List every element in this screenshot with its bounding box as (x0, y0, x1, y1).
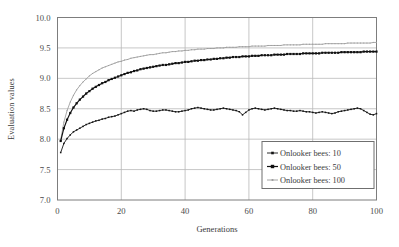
series-marker (357, 107, 359, 109)
series-marker (187, 61, 189, 63)
series-marker (353, 108, 355, 110)
series-marker (350, 109, 352, 111)
series-marker (366, 50, 368, 52)
series-marker (121, 113, 123, 115)
series-marker (356, 51, 358, 53)
series-marker (232, 109, 234, 111)
series-marker (273, 54, 275, 56)
series-marker (232, 47, 233, 48)
series-marker (337, 52, 339, 54)
series-marker (123, 73, 125, 75)
series-marker (79, 127, 81, 129)
series-marker (127, 110, 128, 112)
y-axis-title: Evaluation values (7, 78, 16, 140)
series-marker (89, 75, 90, 76)
series-marker (293, 44, 294, 45)
series-marker (302, 52, 304, 54)
series-marker (85, 92, 87, 94)
series-marker (312, 112, 314, 114)
series-marker (302, 110, 304, 112)
series-marker (308, 52, 310, 54)
series-marker (354, 43, 355, 44)
series-marker (226, 47, 227, 48)
series-marker (105, 118, 107, 120)
series-marker (169, 52, 170, 53)
series-marker (328, 112, 330, 114)
series-marker (146, 67, 148, 69)
x-tick-label: 100 (370, 206, 383, 216)
series-marker (194, 49, 195, 50)
series-marker (363, 50, 365, 52)
series-marker (289, 53, 291, 55)
series-marker (207, 109, 209, 111)
series-marker (344, 110, 346, 112)
series-marker (340, 51, 342, 53)
series-marker (95, 120, 97, 122)
series-marker (204, 49, 205, 50)
series-marker (85, 124, 87, 126)
chart-figure: 7.07.58.08.59.09.510.0 020406080100 Gene… (0, 0, 399, 247)
series-marker (283, 109, 285, 111)
series-marker (114, 77, 116, 79)
series-marker (203, 108, 205, 110)
series-marker (201, 49, 202, 50)
series-marker (261, 109, 263, 111)
y-tick-label: 9.5 (40, 43, 51, 53)
series-marker (369, 50, 371, 52)
series-marker (239, 46, 240, 47)
series-marker (104, 81, 106, 83)
series-marker (293, 110, 295, 112)
series-marker (73, 95, 74, 96)
series-marker (290, 110, 292, 112)
series-marker (331, 52, 333, 54)
y-tick-label: 10.0 (35, 13, 50, 23)
series-marker (162, 64, 164, 66)
series-marker (359, 51, 361, 53)
series-marker (315, 112, 317, 114)
series-marker (331, 43, 332, 44)
series-marker (309, 111, 311, 113)
series-marker (338, 43, 339, 44)
series-marker (251, 55, 253, 57)
series-marker (357, 43, 358, 44)
series-marker (175, 51, 176, 52)
series-marker (197, 107, 199, 109)
series-marker (127, 59, 128, 60)
series-marker (107, 79, 109, 81)
series-marker (347, 109, 349, 111)
series-marker (252, 46, 253, 47)
series-marker (223, 107, 225, 109)
series-marker (219, 57, 221, 59)
series-marker (255, 46, 256, 47)
series-marker (220, 47, 221, 48)
series-marker (373, 42, 374, 43)
series-marker (174, 62, 176, 64)
x-tick-label: 40 (181, 206, 190, 216)
series-marker (245, 55, 247, 57)
series-marker (140, 109, 142, 111)
series-marker (172, 51, 173, 52)
y-tick-label: 9.0 (40, 73, 51, 83)
series-marker (248, 46, 249, 47)
series-marker (213, 58, 215, 60)
series-marker (280, 109, 282, 111)
series-marker (344, 43, 345, 44)
series-marker (92, 121, 94, 123)
series-marker (194, 60, 196, 62)
x-tick-label: 60 (245, 206, 254, 216)
series-marker (375, 50, 377, 52)
series-marker (210, 48, 211, 49)
series-marker (117, 75, 119, 77)
series-marker (319, 44, 320, 45)
series-marker (111, 78, 113, 80)
series-marker (360, 108, 362, 110)
series-marker (325, 112, 327, 114)
series-marker (210, 109, 212, 111)
series-marker (318, 112, 320, 114)
series-marker (159, 110, 161, 112)
series-marker (287, 44, 288, 45)
series-marker (213, 48, 214, 49)
series-marker (76, 89, 77, 90)
series-marker (283, 54, 285, 56)
series-marker (341, 110, 343, 112)
